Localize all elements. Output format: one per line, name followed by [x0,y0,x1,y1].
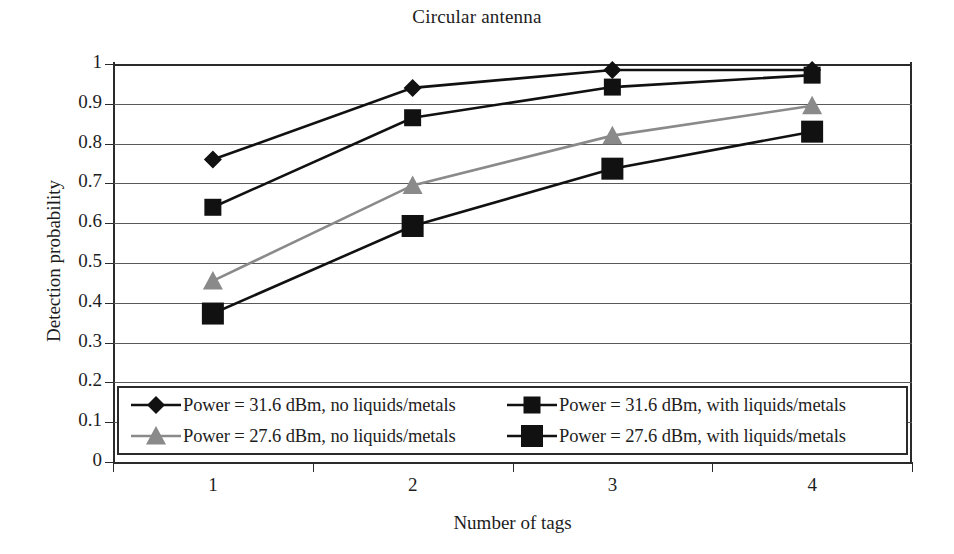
chart-title: Circular antenna [0,6,954,28]
x-tick-label: 2 [373,474,453,496]
gridline [113,64,912,66]
legend-label: Power = 27.6 dBm, with liquids/metals [559,426,846,447]
y-tick-label: 0.6 [42,210,102,232]
y-tick-label: 0.9 [42,91,102,113]
gridline [113,303,912,304]
y-tick-label: 0.7 [42,170,102,192]
y-tick-mark [105,144,114,145]
y-tick-mark [105,303,114,304]
legend-entry-0[interactable]: Power = 31.6 dBm, no liquids/metals [119,390,497,421]
gridline [113,263,912,264]
y-tick-mark [105,263,114,264]
gridline [113,343,912,344]
legend-label: Power = 31.6 dBm, no liquids/metals [183,395,456,416]
gridline [113,183,912,184]
chart-legend: Power = 31.6 dBm, no liquids/metals Powe… [117,386,908,455]
y-tick-mark [105,422,114,423]
y-axis-tick-labels: 10.90.80.70.60.50.40.30.20.10 [40,0,102,554]
y-tick-label: 0.2 [42,369,102,391]
x-tick-mark [513,462,514,472]
x-tick-label: 4 [772,474,852,496]
x-tick-mark [712,462,713,472]
y-tick-mark [105,223,114,224]
x-tick-mark [113,462,114,472]
y-tick-label: 0.4 [42,290,102,312]
legend-label: Power = 27.6 dBm, no liquids/metals [183,426,456,447]
x-tick-label: 3 [572,474,652,496]
y-tick-mark [105,104,114,105]
legend-marker-diamond-icon [129,393,183,417]
legend-label: Power = 31.6 dBm, with liquids/metals [559,395,846,416]
y-tick-label: 0.8 [42,131,102,153]
y-tick-mark [105,382,114,383]
y-tick-label: 0 [42,449,102,471]
legend-row-1: Power = 31.6 dBm, no liquids/metals Powe… [119,390,906,421]
legend-marker-square-icon [505,393,559,417]
y-tick-mark [105,343,114,344]
y-tick-mark [105,183,114,184]
y-tick-label: 0.5 [42,250,102,272]
y-tick-mark [105,64,114,65]
legend-marker-triangle-icon [129,424,183,448]
legend-row-2: Power = 27.6 dBm, no liquids/metals Powe… [119,421,906,452]
y-tick-label: 0.3 [42,330,102,352]
gridline [113,144,912,145]
legend-entry-2[interactable]: Power = 27.6 dBm, no liquids/metals [119,421,497,452]
legend-entry-1[interactable]: Power = 31.6 dBm, with liquids/metals [497,390,897,421]
y-tick-label: 0.1 [42,409,102,431]
gridline [113,382,912,383]
gridline [113,104,912,105]
x-tick-label: 1 [173,474,253,496]
x-tick-mark [912,462,913,472]
legend-entry-3[interactable]: Power = 27.6 dBm, with liquids/metals [497,421,897,452]
x-axis-title: Number of tags [113,512,912,534]
legend-marker-square-large-icon [505,424,559,448]
gridline [113,223,912,224]
y-tick-label: 1 [42,51,102,73]
x-tick-mark [313,462,314,472]
chart-figure: Circular antenna Detection probability 1… [0,0,954,554]
